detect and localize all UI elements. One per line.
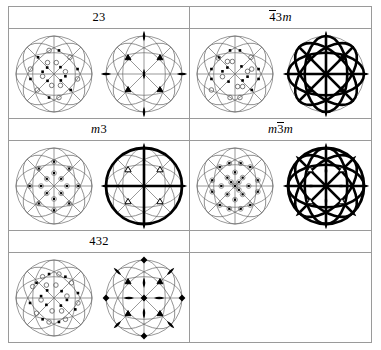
stereogram-m3barm [190, 141, 281, 230]
symbol-part: m [268, 122, 277, 137]
point-group-4bar3m: 43m [190, 7, 371, 28]
point-group-m3: m3 [9, 119, 190, 140]
symmetry-diagram-4bar3m [281, 29, 372, 118]
symbol-part: m [282, 10, 291, 25]
symbol-part: 432 [89, 234, 109, 249]
symbol-part: 3 [277, 122, 284, 137]
symmetry-diagram-m3 [100, 141, 191, 230]
diagram-row [9, 29, 371, 119]
stereogram-432 [9, 253, 100, 343]
stereogram-4bar3m [190, 29, 281, 118]
point-group-23: 23 [9, 7, 190, 28]
point-group-432: 432 [9, 231, 190, 252]
symbol-part: 4 [269, 10, 276, 25]
header-row: 432 [9, 231, 371, 253]
point-group-table: 2343mm3m3m432 [8, 6, 372, 343]
header-row: m3m3m [9, 119, 371, 141]
header-row: 2343m [9, 7, 371, 29]
empty-cell-2 [281, 253, 372, 343]
diagram-row [9, 253, 371, 343]
diagram-row [9, 141, 371, 231]
stereogram-m3 [9, 141, 100, 230]
point-group-empty [190, 231, 371, 252]
symmetry-diagram-432 [100, 253, 191, 343]
empty-cell-1 [190, 253, 281, 343]
point-group-m3barm: m3m [190, 119, 371, 140]
symbol-part: m [284, 122, 293, 137]
symbol-part: 3 [100, 122, 107, 137]
symbol-part: m [91, 122, 100, 137]
stereogram-23 [9, 29, 100, 118]
symmetry-diagram-m3barm [281, 141, 372, 230]
symmetry-diagram-23 [100, 29, 191, 118]
symbol-part: 23 [92, 10, 105, 25]
